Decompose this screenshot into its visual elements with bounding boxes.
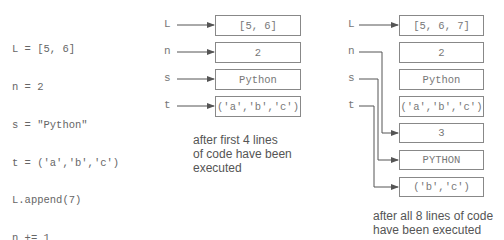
- caption-line: after first 4 lines: [193, 133, 292, 147]
- var-label-L: L: [164, 18, 171, 30]
- var-label-n: n: [164, 45, 171, 57]
- value-box-list: [5, 6]: [215, 15, 301, 36]
- value-box-str: Python: [399, 69, 484, 90]
- caption-line: have been executed: [373, 223, 493, 237]
- caption-before: after first 4 lines of code have been ex…: [193, 133, 292, 175]
- value-box-str-new: PYTHON: [399, 150, 484, 170]
- value-box-int-new: 3: [399, 123, 484, 143]
- var-label-t: t: [164, 99, 171, 111]
- value-box-tuple: ('a','b','c'): [399, 96, 484, 117]
- var-label-s: s: [348, 72, 355, 84]
- caption-line: after all 8 lines of code: [373, 209, 493, 223]
- var-label-s: s: [164, 72, 171, 84]
- value-box-tuple-new: ('b','c'): [399, 177, 484, 197]
- value-box-int: 2: [399, 42, 484, 63]
- caption-after: after all 8 lines of code have been exec…: [373, 209, 493, 237]
- var-label-n: n: [348, 45, 355, 57]
- arrow-connectors: [0, 0, 504, 240]
- value-box-int: 2: [215, 42, 301, 63]
- var-label-L: L: [348, 18, 355, 30]
- var-label-t: t: [348, 99, 355, 111]
- value-box-list: [5, 6, 7]: [399, 15, 484, 36]
- value-box-str: Python: [215, 69, 301, 90]
- value-box-tuple: ('a','b','c'): [215, 96, 301, 117]
- caption-line: executed: [193, 161, 292, 175]
- caption-line: of code have been: [193, 147, 292, 161]
